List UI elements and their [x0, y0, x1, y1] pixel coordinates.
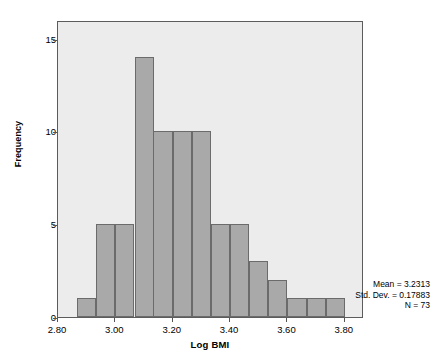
- x-axis-label: Log BMI: [57, 339, 363, 350]
- y-axis-tick: 10: [22, 126, 56, 137]
- y-axis-tick: 0: [22, 312, 56, 323]
- x-axis-tick-mark: [57, 318, 58, 322]
- x-axis-tick-mark: [172, 318, 173, 322]
- stat-n: N = 73: [300, 300, 430, 311]
- x-axis-tick: 3.60: [266, 324, 306, 335]
- histogram-bar: [173, 131, 192, 317]
- histogram-bar: [268, 280, 287, 317]
- stat-mean: Mean = 3.2313: [300, 279, 430, 290]
- x-axis-tick: 2.80: [37, 324, 77, 335]
- plot-area: [57, 21, 363, 318]
- y-axis-tick-mark: [53, 318, 57, 319]
- stat-std-dev: Std. Dev. = 0.17883: [300, 290, 430, 301]
- y-axis-tick-mark: [53, 132, 57, 133]
- histogram-bar: [115, 224, 134, 317]
- x-axis-tick-mark: [344, 318, 345, 322]
- y-axis-tick-labels: 051015: [18, 0, 56, 359]
- x-axis-tick-mark: [229, 318, 230, 322]
- statistics-annotation: Mean = 3.2313 Std. Dev. = 0.17883 N = 73: [300, 279, 430, 311]
- x-axis-tick: 3.40: [209, 324, 249, 335]
- histogram-bar: [153, 131, 172, 317]
- histogram-bar: [192, 131, 211, 317]
- y-axis-tick-mark: [53, 225, 57, 226]
- y-axis-tick-mark: [53, 40, 57, 41]
- bars-container: [58, 22, 362, 317]
- histogram-bar: [135, 57, 154, 317]
- histogram-bar: [249, 261, 268, 317]
- histogram-bar: [77, 298, 96, 317]
- x-axis-tick-mark: [114, 318, 115, 322]
- x-axis-tick-mark: [286, 318, 287, 322]
- histogram-bar: [96, 224, 115, 317]
- histogram-figure: Frequency 051015 2.803.003.203.403.603.8…: [0, 0, 432, 359]
- x-axis-tick: 3.80: [324, 324, 364, 335]
- histogram-bar: [230, 224, 249, 317]
- y-axis-tick: 5: [22, 219, 56, 230]
- y-axis-tick: 15: [22, 34, 56, 45]
- histogram-bar: [211, 224, 230, 317]
- x-axis-tick: 3.00: [94, 324, 134, 335]
- x-axis-tick: 3.20: [152, 324, 192, 335]
